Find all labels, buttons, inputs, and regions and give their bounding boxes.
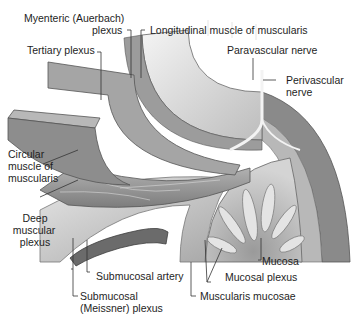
label-circular-muscle-line2: muscle of: [8, 160, 53, 172]
label-circular-muscle-line3: muscularis: [8, 172, 58, 184]
label-myenteric-plexus-line2: plexus: [92, 24, 122, 36]
label-submucosal-plexus-line1: Submucosal: [80, 290, 138, 302]
label-circular-muscle-line1: Circular: [8, 148, 44, 160]
label-myenteric-plexus-line1: Myenteric (Auerbach): [24, 12, 124, 24]
label-muscularis-mucosae: Muscularis mucosae: [200, 290, 296, 302]
label-perivascular-nerve-line2: nerve: [286, 86, 312, 98]
label-mucosa: Mucosa: [262, 255, 299, 267]
label-longitudinal-muscle: Longitudinal muscle of muscularis: [150, 24, 308, 36]
label-deep-muscular-plexus-line1: Deep: [10, 212, 60, 224]
label-perivascular-nerve-line1: Perivascular: [286, 74, 344, 86]
label-deep-muscular-plexus-line3: plexus: [10, 236, 60, 248]
label-mucosal-plexus: Mucosal plexus: [225, 271, 297, 283]
label-tertiary-plexus: Tertiary plexus: [27, 44, 95, 56]
label-submucosal-artery: Submucosal artery: [96, 270, 184, 282]
intestinal-wall-diagram: Myenteric (Auerbach) plexus Longitudinal…: [0, 0, 357, 316]
label-submucosal-plexus-line2: (Meissner) plexus: [80, 302, 163, 314]
label-deep-muscular-plexus-line2: muscular: [6, 224, 62, 236]
label-paravascular-nerve: Paravascular nerve: [227, 44, 317, 56]
